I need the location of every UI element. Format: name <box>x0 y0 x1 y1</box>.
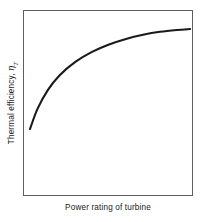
figure-canvas: Thermal efficiency, ηT Power rating of t… <box>0 0 211 222</box>
x-axis-label: Power rating of turbine <box>23 204 193 212</box>
thermal-efficiency-curve <box>24 11 194 197</box>
y-axis-label: Thermal efficiency, ηT <box>7 62 18 144</box>
eta-symbol: η <box>6 66 16 71</box>
y-axis-label-text: Thermal efficiency, <box>7 71 16 144</box>
eta-subscript: T <box>13 62 19 66</box>
curve-line <box>30 29 190 129</box>
plot-frame <box>23 10 193 196</box>
